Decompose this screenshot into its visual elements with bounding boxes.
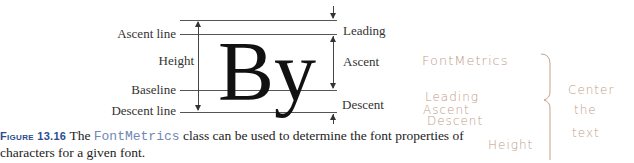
figure-caption: Figure 13.16 The FontMetrics class can b… — [0, 128, 470, 161]
ascent-arrow-up-icon — [330, 36, 336, 42]
label-descent-line: Descent line — [26, 103, 176, 119]
leading-arrow-down-icon — [330, 13, 336, 19]
caption-line-2: characters for a given font. — [0, 145, 145, 160]
height-arrow-down-icon — [195, 105, 201, 111]
note-side-text: text — [572, 126, 600, 140]
label-ascent-line: Ascent line — [26, 26, 176, 42]
figure-number: Figure 13.16 — [0, 130, 66, 142]
handwritten-brace-icon — [538, 52, 568, 162]
height-arrow-up-icon — [195, 21, 201, 27]
note-side-center: Center — [568, 83, 614, 97]
note-item-descent: Descent — [427, 114, 483, 128]
caption-text-before: The — [69, 128, 93, 143]
ascent-arrow-down-icon — [330, 83, 336, 89]
ascent-arrow-shaft — [333, 36, 334, 88]
label-leading: Leading — [343, 23, 386, 39]
descent-arrow-up-icon — [330, 114, 336, 120]
label-ascent: Ascent — [343, 54, 379, 70]
label-height: Height — [44, 53, 194, 69]
leading-top-line — [180, 20, 337, 21]
note-title: FontMetrics — [422, 53, 509, 68]
caption-text-after: class can be used to determine the font … — [180, 128, 464, 143]
note-side-the: the — [574, 103, 597, 117]
height-arrow-shaft — [198, 22, 199, 110]
note-item-leading: Leading — [425, 90, 479, 104]
label-descent: Descent — [342, 97, 384, 113]
note-item-height: Height — [488, 138, 533, 152]
label-baseline: Baseline — [26, 82, 176, 98]
sample-glyph-text: By — [218, 30, 316, 114]
caption-class-name: FontMetrics — [94, 129, 180, 144]
